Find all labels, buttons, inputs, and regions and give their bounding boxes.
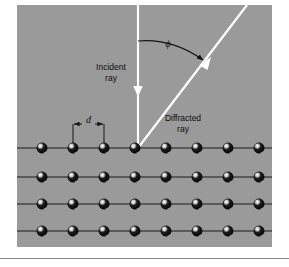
lattice-atom [161, 143, 171, 153]
lattice-atom [223, 226, 233, 236]
lattice-atom [192, 199, 202, 209]
lattice-atom [192, 226, 202, 236]
lattice-atom [99, 172, 109, 182]
lattice-atom [68, 143, 78, 153]
lattice-atom [254, 172, 264, 182]
lattice-atom [223, 143, 233, 153]
lattice-atom [37, 172, 47, 182]
lattice-atom [99, 226, 109, 236]
lattice-atom [130, 199, 140, 209]
lattice-atom [161, 172, 171, 182]
lattice-atom [68, 199, 78, 209]
angle-symbol-label: ϕ [165, 38, 170, 49]
lattice-atom [130, 143, 140, 153]
lattice-atom [68, 226, 78, 236]
lattice-atom [161, 199, 171, 209]
diffraction-figure: ϕ d Incident ray Diffracted ray [0, 0, 289, 267]
lattice-atom [254, 226, 264, 236]
lattice-atom [161, 226, 171, 236]
lattice-atom [192, 172, 202, 182]
lattice-atom [192, 143, 202, 153]
figure-panel [17, 5, 272, 247]
incident-ray-label-line2: ray [105, 73, 118, 83]
lattice-atom [37, 143, 47, 153]
lattice-atom [68, 172, 78, 182]
diffracted-ray-label-line1: Diffracted [165, 113, 201, 123]
lattice-atom [37, 199, 47, 209]
lattice-atom [223, 199, 233, 209]
diffracted-ray-label-line2: ray [177, 124, 190, 134]
lattice-atom [37, 226, 47, 236]
diffraction-diagram-svg: ϕ d Incident ray Diffracted ray [0, 0, 289, 267]
incident-ray-label-line1: Incident [96, 62, 126, 72]
lattice-atom [99, 143, 109, 153]
lattice-atom [99, 199, 109, 209]
lattice-atom [130, 172, 140, 182]
lattice-atom [223, 172, 233, 182]
lattice-atom [130, 226, 140, 236]
lattice-atom [254, 199, 264, 209]
lattice-atom [254, 143, 264, 153]
